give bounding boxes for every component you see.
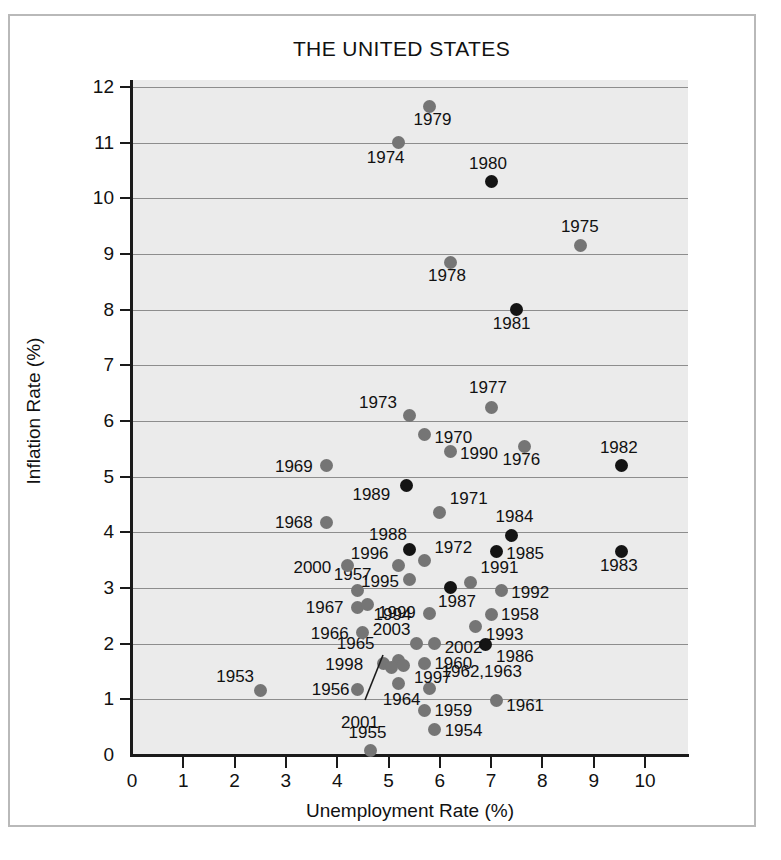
data-point-1961[interactable] xyxy=(490,694,503,707)
x-tick-label-1: 1 xyxy=(163,770,203,792)
y-tick-label-text: 7 xyxy=(80,354,114,376)
page-title: THE UNITED STATES xyxy=(0,37,781,61)
data-point-1994[interactable] xyxy=(423,607,436,620)
data-point-1990[interactable] xyxy=(444,445,457,458)
x-tick-label-4: 4 xyxy=(317,770,357,792)
data-point-1995[interactable] xyxy=(403,573,416,586)
data-point-label-1992: 1992 xyxy=(511,583,549,603)
gridline-y-10 xyxy=(132,198,688,199)
y-tick-label-text: 6 xyxy=(80,410,114,432)
data-point-label-1969: 1969 xyxy=(275,457,313,477)
data-point-label-1973: 1973 xyxy=(359,393,397,413)
y-tick-5 xyxy=(120,476,133,478)
y-tick-label-text: 5 xyxy=(80,466,114,488)
y-tick-1 xyxy=(120,698,133,700)
y-tick-2 xyxy=(120,643,133,645)
y-tick-8 xyxy=(120,309,133,311)
y-tick-12 xyxy=(120,86,133,88)
data-point-label-1972: 1972 xyxy=(434,538,472,558)
x-tick-3 xyxy=(285,755,287,768)
data-point-1958[interactable] xyxy=(485,608,498,621)
data-point-label-1997: 1997 xyxy=(414,668,452,688)
data-point-label-1975: 1975 xyxy=(561,217,599,237)
data-point-label-1984: 1984 xyxy=(496,507,534,527)
y-tick-label-9: 9 xyxy=(70,243,114,263)
data-point-label-1983: 1983 xyxy=(600,556,638,576)
data-point-1955[interactable] xyxy=(364,744,377,757)
data-point-label-1987: 1987 xyxy=(438,592,476,612)
data-point-label-1974: 1974 xyxy=(367,148,405,168)
data-point-1984[interactable] xyxy=(505,529,518,542)
data-point-1956[interactable] xyxy=(351,683,364,696)
y-tick-9 xyxy=(120,253,133,255)
x-tick-label-5: 5 xyxy=(369,770,409,792)
data-point-label-1996: 1996 xyxy=(351,544,389,564)
y-tick-label-text: 0 xyxy=(80,744,114,766)
data-point-1991[interactable] xyxy=(464,576,477,589)
y-tick-label-text: 3 xyxy=(80,577,114,599)
y-axis-line xyxy=(130,80,133,757)
data-point-label-1980: 1980 xyxy=(469,154,507,174)
y-tick-label-0: 0 xyxy=(70,744,114,764)
y-axis-title: Inflation Rate (%) xyxy=(23,301,45,521)
y-tick-11 xyxy=(120,142,133,144)
data-point-label-2000: 2000 xyxy=(293,558,331,578)
scatter-chart-figure: THE UNITED STATES 0123456789101112012345… xyxy=(0,0,781,860)
gridline-y-8 xyxy=(132,310,688,311)
data-point-label-2003: 2003 xyxy=(373,620,411,640)
data-point-label-1967: 1967 xyxy=(306,598,344,618)
y-tick-7 xyxy=(120,364,133,366)
y-tick-label-text: 10 xyxy=(80,187,114,209)
y-tick-4 xyxy=(120,531,133,533)
data-point-label-1954: 1954 xyxy=(445,721,483,741)
data-point-label-1988: 1988 xyxy=(369,525,407,545)
y-tick-label-5: 5 xyxy=(70,466,114,486)
x-tick-label-0: 0 xyxy=(112,770,152,792)
data-point-label-1978: 1978 xyxy=(428,266,466,286)
y-tick-10 xyxy=(120,197,133,199)
y-tick-label-2: 2 xyxy=(70,633,114,653)
data-point-label-2002: 2002 xyxy=(445,638,483,658)
x-tick-8 xyxy=(541,755,543,768)
data-point-1972[interactable] xyxy=(418,554,431,567)
gridline-y-4 xyxy=(132,532,688,533)
y-tick-label-7: 7 xyxy=(70,354,114,374)
data-point-label-1986: 1986 xyxy=(496,647,534,667)
gridline-y-9 xyxy=(132,254,688,255)
x-tick-label-3: 3 xyxy=(266,770,306,792)
x-axis-title: Unemployment Rate (%) xyxy=(132,800,688,822)
data-point-label-1981: 1981 xyxy=(493,314,531,334)
data-point-label-1979: 1979 xyxy=(414,110,452,130)
data-point-1973[interactable] xyxy=(403,409,416,422)
y-tick-label-11: 11 xyxy=(70,132,114,152)
x-tick-6 xyxy=(439,755,441,768)
data-point-label-1964: 1964 xyxy=(383,690,421,710)
y-tick-label-8: 8 xyxy=(70,299,114,319)
y-tick-label-text: 8 xyxy=(80,299,114,321)
x-tick-label-8: 8 xyxy=(522,770,562,792)
data-point-label-1993: 1993 xyxy=(486,625,524,645)
data-point-1977[interactable] xyxy=(485,401,498,414)
data-point-label-1995: 1995 xyxy=(361,572,399,592)
y-tick-label-text: 2 xyxy=(80,633,114,655)
data-point-label-1989: 1989 xyxy=(352,485,390,505)
y-tick-label-12: 12 xyxy=(70,76,114,96)
data-point-label-2001: 2001 xyxy=(341,713,379,733)
data-point-1989[interactable] xyxy=(400,479,413,492)
data-point-2001[interactable] xyxy=(385,661,398,674)
data-point-label-1953: 1953 xyxy=(216,667,254,687)
y-tick-label-4: 4 xyxy=(70,521,114,541)
x-tick-10 xyxy=(644,755,646,768)
y-tick-3 xyxy=(120,587,133,589)
data-point-1985[interactable] xyxy=(490,545,503,558)
x-tick-label-9: 9 xyxy=(574,770,614,792)
x-tick-9 xyxy=(593,755,595,768)
y-tick-label-10: 10 xyxy=(70,187,114,207)
x-axis-line xyxy=(130,754,689,757)
y-tick-label-6: 6 xyxy=(70,410,114,430)
data-point-label-1982: 1982 xyxy=(600,438,638,458)
data-point-1980[interactable] xyxy=(485,175,498,188)
data-point-label-1990: 1990 xyxy=(460,444,498,464)
gridline-y-12 xyxy=(132,87,688,88)
y-tick-label-text: 9 xyxy=(80,243,114,265)
